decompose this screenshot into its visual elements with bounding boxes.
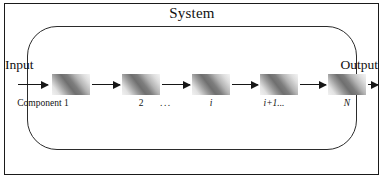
input-label: Input <box>5 57 34 73</box>
component-label-i-plus-1: i+1... <box>250 98 298 108</box>
input-arrow <box>18 84 48 85</box>
arrow-i-to-i1 <box>232 84 258 85</box>
component-box-1 <box>52 74 90 95</box>
component-label-1: Component 1 <box>5 98 81 108</box>
arrow-1-to-2 <box>92 84 120 85</box>
component-box-i <box>192 74 230 95</box>
components-ellipsis: ... <box>160 98 172 108</box>
component-box-2 <box>122 74 160 95</box>
component-label-i: i <box>192 98 230 108</box>
component-pipeline <box>0 74 384 96</box>
output-arrow <box>368 84 378 85</box>
component-labels-row: Component 1 2 ... i i+1... N <box>0 98 384 114</box>
system-block-diagram: System Input Output Component 1 2 ... i … <box>0 0 384 179</box>
component-box-i-plus-1 <box>260 74 298 95</box>
arrow-2-to-i <box>162 84 190 85</box>
component-box-N <box>328 74 366 95</box>
output-label: Output <box>340 57 378 73</box>
arrow-i1-to-N <box>300 84 326 85</box>
component-label-N: N <box>329 98 365 108</box>
system-title: System <box>0 5 384 22</box>
component-label-2: 2 <box>123 98 159 108</box>
